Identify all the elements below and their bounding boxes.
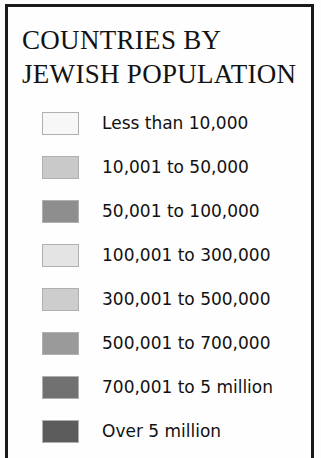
- legend-card: COUNTRIES BY JEWISH POPULATION Less than…: [0, 0, 321, 458]
- legend-item: 700,001 to 5 million: [8, 365, 311, 409]
- legend-item-label: 100,001 to 300,000: [102, 245, 270, 265]
- legend-frame: COUNTRIES BY JEWISH POPULATION Less than…: [5, 4, 314, 458]
- legend-item: Over 5 million: [8, 409, 311, 453]
- legend-title: COUNTRIES BY JEWISH POPULATION: [8, 7, 311, 91]
- legend-item-label: Over 5 million: [102, 421, 221, 441]
- legend-swatch: [42, 420, 79, 443]
- legend-item-label: Less than 10,000: [102, 113, 248, 133]
- legend-item-label: 300,001 to 500,000: [102, 289, 270, 309]
- legend-swatch: [42, 332, 79, 355]
- legend-item-label: 700,001 to 5 million: [102, 377, 273, 397]
- legend-swatch: [42, 288, 79, 311]
- legend-swatch: [42, 156, 79, 179]
- legend-item: 300,001 to 500,000: [8, 277, 311, 321]
- legend-item: 10,001 to 50,000: [8, 145, 311, 189]
- legend-title-line-1: COUNTRIES BY: [22, 23, 311, 57]
- legend-item: 500,001 to 700,000: [8, 321, 311, 365]
- legend-items-list: Less than 10,000 10,001 to 50,000 50,001…: [8, 101, 311, 453]
- legend-title-line-2: JEWISH POPULATION: [22, 57, 311, 91]
- legend-item-label: 50,001 to 100,000: [102, 201, 260, 221]
- legend-swatch: [42, 112, 79, 135]
- legend-item-label: 500,001 to 700,000: [102, 333, 270, 353]
- legend-item: 50,001 to 100,000: [8, 189, 311, 233]
- legend-item: 100,001 to 300,000: [8, 233, 311, 277]
- legend-swatch: [42, 376, 79, 399]
- legend-item-label: 10,001 to 50,000: [102, 157, 249, 177]
- legend-swatch: [42, 200, 79, 223]
- legend-item: Less than 10,000: [8, 101, 311, 145]
- legend-swatch: [42, 244, 79, 267]
